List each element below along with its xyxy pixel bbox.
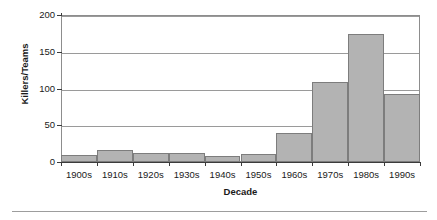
y-tick-label-100: 100 <box>28 84 55 94</box>
y-tick-mark-200 <box>57 15 62 16</box>
x-tick-label-1990s: 1990s <box>384 169 420 181</box>
y-tick-label-0: 0 <box>28 157 55 167</box>
bar-1900s <box>61 155 97 162</box>
x-tick-mark-9 <box>384 162 385 166</box>
bars-layer <box>61 15 420 162</box>
x-tick-label-1900s: 1900s <box>61 169 97 181</box>
y-tick-label-200: 200 <box>28 10 55 20</box>
x-tick-mark-1 <box>97 162 98 166</box>
y-tick-mark-100 <box>57 89 62 90</box>
y-tick-mark-50 <box>57 125 62 126</box>
x-tick-mark-10 <box>420 162 421 166</box>
x-tick-label-1910s: 1910s <box>97 169 133 181</box>
x-tick-label-1980s: 1980s <box>348 169 384 181</box>
x-tick-label-1970s: 1970s <box>312 169 348 181</box>
x-tick-label-1930s: 1930s <box>169 169 205 181</box>
bar-1950s <box>241 154 277 162</box>
x-tick-mark-7 <box>312 162 313 166</box>
bottom-divider-rule <box>12 211 427 212</box>
x-tick-mark-4 <box>205 162 206 166</box>
y-tick-mark-150 <box>57 52 62 53</box>
bar-1980s <box>348 34 384 162</box>
bar-1940s <box>205 156 241 162</box>
x-tick-mark-3 <box>169 162 170 166</box>
y-tick-label-50: 50 <box>28 120 55 130</box>
x-tick-mark-2 <box>133 162 134 166</box>
bar-1960s <box>276 133 312 162</box>
bar-1920s <box>133 153 169 162</box>
x-tick-mark-6 <box>276 162 277 166</box>
x-tick-label-1950s: 1950s <box>241 169 277 181</box>
bar-1990s <box>384 94 420 162</box>
bar-1910s <box>97 150 133 162</box>
bar-chart-figure: Killers/Teams 050100150200 1900s1910s192… <box>0 0 437 220</box>
bar-1970s <box>312 82 348 162</box>
y-tick-label-150: 150 <box>28 47 55 57</box>
x-tick-label-1940s: 1940s <box>205 169 241 181</box>
y-axis-tick-labels: 050100150200 <box>28 0 55 220</box>
x-tick-label-1960s: 1960s <box>276 169 312 181</box>
x-tick-label-1920s: 1920s <box>133 169 169 181</box>
x-axis-title: Decade <box>61 186 420 198</box>
x-tick-mark-8 <box>348 162 349 166</box>
bar-1930s <box>169 153 205 162</box>
x-tick-mark-0 <box>61 162 62 166</box>
x-axis-tick-labels: 1900s1910s1920s1930s1940s1950s1960s1970s… <box>61 169 420 183</box>
x-tick-mark-5 <box>241 162 242 166</box>
